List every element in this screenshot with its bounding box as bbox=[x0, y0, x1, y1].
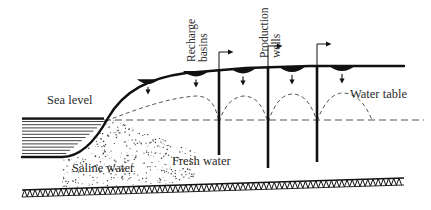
stipple-dot bbox=[194, 134, 195, 135]
stipple-dot bbox=[142, 135, 143, 136]
stipple-dot bbox=[61, 123, 62, 124]
production-wells-label-line1: Production bbox=[259, 8, 271, 58]
stipple-dot bbox=[144, 122, 145, 123]
stipple-dot bbox=[150, 157, 151, 158]
stipple-dot bbox=[161, 170, 163, 172]
stipple-dot bbox=[64, 115, 65, 116]
stipple-dot bbox=[73, 142, 74, 143]
stipple-dot bbox=[190, 150, 192, 152]
stipple-dot bbox=[200, 179, 201, 180]
stipple-dot bbox=[172, 182, 173, 183]
stipple-dot bbox=[118, 110, 119, 111]
stipple-dot bbox=[91, 153, 92, 154]
stipple-dot bbox=[130, 121, 131, 122]
stipple-dot bbox=[128, 128, 130, 130]
stipple-dot bbox=[153, 122, 155, 124]
stipple-dot bbox=[154, 122, 155, 123]
stipple-dot bbox=[159, 146, 160, 147]
stipple-dot bbox=[105, 144, 106, 145]
stipple-dot bbox=[136, 126, 137, 127]
stipple-dot bbox=[146, 121, 148, 123]
stipple-dot bbox=[147, 134, 148, 135]
stipple-dot bbox=[171, 129, 172, 130]
stipple-dot bbox=[188, 122, 189, 123]
stipple-dot bbox=[168, 172, 169, 173]
stipple-dot bbox=[109, 152, 110, 153]
stipple-dot bbox=[97, 144, 98, 145]
stipple-dot bbox=[124, 142, 125, 143]
stipple-dot bbox=[85, 130, 86, 131]
stipple-dot bbox=[150, 169, 151, 170]
stipple-dot bbox=[60, 112, 61, 113]
stipple-dot bbox=[163, 124, 164, 125]
stipple-dot bbox=[107, 134, 108, 135]
stipple-dot bbox=[200, 135, 201, 136]
stipple-dot bbox=[92, 177, 94, 179]
stipple-dot bbox=[120, 122, 121, 123]
stipple-dot bbox=[130, 177, 131, 178]
stipple-dot bbox=[113, 120, 114, 121]
stipple-dot bbox=[171, 140, 172, 141]
stipple-dot bbox=[117, 110, 118, 111]
stipple-dot bbox=[82, 145, 83, 146]
stipple-dot bbox=[138, 179, 139, 180]
recharge-basins-label-line1: Recharge bbox=[186, 19, 198, 62]
stipple-dot bbox=[163, 156, 164, 157]
stipple-dot bbox=[192, 146, 194, 148]
stipple-dot bbox=[185, 116, 186, 117]
stipple-dot bbox=[102, 158, 103, 159]
fresh-water-label: Fresh water bbox=[172, 155, 231, 168]
stipple-dot bbox=[65, 145, 66, 146]
stipple-dot bbox=[125, 128, 126, 129]
stipple-dot bbox=[75, 179, 77, 181]
stipple-dot bbox=[155, 142, 156, 143]
stipple-dot bbox=[116, 110, 117, 111]
stipple-dot bbox=[147, 166, 148, 167]
stipple-dot bbox=[155, 152, 156, 153]
stipple-dot bbox=[163, 170, 164, 171]
stipple-dot bbox=[169, 126, 170, 127]
stipple-dot bbox=[181, 147, 183, 149]
stipple-dot bbox=[125, 141, 126, 142]
stipple-dot bbox=[122, 176, 124, 178]
water-table-mound bbox=[268, 94, 317, 122]
stipple-dot bbox=[191, 173, 193, 175]
stipple-dot bbox=[152, 139, 154, 141]
stipple-dot bbox=[67, 183, 68, 184]
stipple-dot bbox=[192, 137, 193, 138]
stipple-dot bbox=[168, 124, 170, 126]
stipple-dot bbox=[147, 146, 148, 147]
stipple-dot bbox=[196, 173, 197, 174]
stipple-dot bbox=[88, 148, 90, 150]
stipple-dot bbox=[182, 151, 183, 152]
stipple-dot bbox=[175, 132, 176, 133]
stipple-dot bbox=[114, 132, 115, 133]
stipple-dot bbox=[128, 155, 129, 156]
stipple-dot bbox=[82, 183, 83, 184]
stipple-dot bbox=[160, 153, 161, 154]
stipple-dot bbox=[183, 168, 184, 169]
stipple-dot bbox=[133, 129, 134, 130]
stipple-dot bbox=[82, 113, 83, 114]
stipple-dot bbox=[142, 178, 143, 179]
stipple-dot bbox=[103, 141, 105, 143]
stipple-dot bbox=[151, 187, 152, 188]
stipple-dot bbox=[153, 125, 154, 126]
stipple-dot bbox=[139, 133, 141, 135]
stipple-dot bbox=[192, 130, 193, 131]
recharge-basin bbox=[230, 68, 256, 73]
stipple-dot bbox=[160, 179, 162, 181]
stipple-dot bbox=[60, 170, 62, 172]
stipple-dot bbox=[186, 147, 187, 148]
stipple-dot bbox=[161, 158, 162, 159]
stipple-dot bbox=[159, 118, 160, 119]
production-wells-label-line2: wells bbox=[271, 34, 283, 58]
stipple-dot bbox=[61, 181, 63, 183]
well-discharge-arrow bbox=[326, 41, 332, 46]
stipple-dot bbox=[147, 129, 148, 130]
stipple-dot bbox=[189, 173, 190, 174]
stipple-dot bbox=[195, 133, 196, 134]
stipple-dot bbox=[157, 182, 158, 183]
stipple-dot bbox=[137, 174, 138, 175]
stipple-dot bbox=[89, 175, 90, 176]
